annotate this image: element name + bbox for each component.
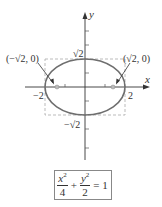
y-axis-label: y xyxy=(88,8,94,20)
left-focus-point xyxy=(55,85,59,89)
fraction-x: x2 4 xyxy=(57,172,67,198)
fraction-y: y2 2 xyxy=(80,172,90,198)
left-vertex-label: −2 xyxy=(33,90,44,101)
y-ticks xyxy=(85,31,89,148)
top-vertex-label: √2 xyxy=(73,48,84,59)
y-axis-arrow-icon xyxy=(83,12,88,19)
equals-one: = 1 xyxy=(93,179,107,191)
right-focus-label: (√2, 0) xyxy=(123,53,150,65)
right-vertex-label: 2 xyxy=(128,90,133,101)
left-focus-label: (−√2, 0) xyxy=(6,53,39,65)
equation-box: x2 4 + y2 2 = 1 xyxy=(54,170,112,200)
plus-sign: + xyxy=(71,179,77,191)
x-axis-label: x xyxy=(144,73,150,85)
bottom-vertex-label: −√2 xyxy=(64,119,80,130)
x-axis-arrow-icon xyxy=(143,85,150,90)
right-focus-point xyxy=(111,85,115,89)
